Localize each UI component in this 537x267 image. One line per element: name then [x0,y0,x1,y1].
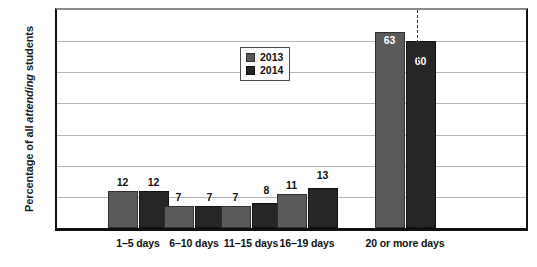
gridline-40 [57,103,526,104]
bar-value-label-2013-group-4: 11 [277,179,307,191]
chart-root: Percentage of all attending students 010… [0,0,537,267]
bar-2014-group-5 [406,41,436,228]
gridline-20 [57,166,526,167]
gridline-30 [57,135,526,136]
legend-swatch-2014 [246,66,255,75]
bar-value-label-2013-group-1: 12 [108,176,138,188]
bar-value-label-2013-group-2: 7 [164,191,194,203]
plot-inner: 1212777811136360 [57,10,526,228]
bar-value-label-2013-group-3: 7 [221,191,251,203]
bar-2013-group-3 [221,206,251,228]
legend-item-2014: 2014 [246,64,283,77]
x-label-group-5: 20 or more days [345,237,465,249]
bar-2013-group-4 [277,194,307,228]
section-divider-dashed-line [417,10,418,228]
bar-value-label-2014-group-5: 60 [406,55,436,67]
legend-swatch-2013 [246,53,255,62]
bar-value-label-2014-group-1: 12 [139,176,169,188]
gridline-50 [57,72,526,73]
legend-label-2014: 2014 [260,64,283,77]
bar-2013-group-1 [108,191,138,228]
legend-item-2013: 2013 [246,51,283,64]
legend-label-2013: 2013 [260,51,283,64]
bar-value-label-2013-group-5: 63 [375,34,405,46]
gridline-60 [57,41,526,42]
chart-legend: 2013 2014 [240,47,290,81]
bar-2013-group-5 [375,32,405,228]
bar-2013-group-2 [164,206,194,228]
bar-2014-group-4 [308,188,338,229]
plot-area: 1212777811136360 [55,8,528,231]
bar-value-label-2014-group-4: 13 [308,169,338,181]
